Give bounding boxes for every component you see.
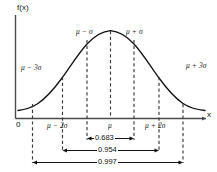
tick-label-mu-plus-2sigma: μ + 2σ bbox=[145, 122, 166, 130]
measure-arrowhead-one-sigma-left bbox=[87, 137, 92, 141]
sigma-gridlines bbox=[33, 31, 184, 163]
measure-arrowhead-two-sigma-left bbox=[63, 149, 68, 153]
tick-label-mu-plus-sigma: μ + σ bbox=[126, 28, 143, 36]
measurement-label-one-sigma: 0.683 bbox=[94, 134, 115, 142]
measurement-label-two-sigma: 0.954 bbox=[97, 146, 118, 154]
measure-arrowhead-three-sigma-right bbox=[179, 161, 184, 165]
measurement-label-three-sigma: 0.997 bbox=[97, 158, 118, 166]
measure-arrowhead-one-sigma-right bbox=[130, 137, 135, 141]
y-axis-label: f(x) bbox=[17, 4, 29, 12]
measure-arrowhead-three-sigma-left bbox=[33, 161, 38, 165]
origin-label: 0 bbox=[16, 121, 20, 129]
x-axis-label: x bbox=[207, 111, 211, 119]
normal-curve bbox=[18, 31, 205, 111]
x-axis-arrowhead bbox=[202, 117, 206, 121]
tick-label-mu-minus-3sigma: μ − 3σ bbox=[21, 64, 42, 72]
normal-distribution-figure: f(x) x 0 μ − 3σ μ − 2σ μ − σ μ μ + σ μ +… bbox=[0, 0, 217, 172]
tick-label-mu: μ bbox=[108, 122, 112, 130]
tick-label-mu-plus-3sigma: μ + 3σ bbox=[186, 62, 207, 70]
tick-label-mu-minus-sigma: μ − σ bbox=[76, 28, 93, 36]
measure-arrowhead-two-sigma-right bbox=[155, 149, 160, 153]
tick-label-mu-minus-2sigma: μ − 2σ bbox=[47, 122, 68, 130]
